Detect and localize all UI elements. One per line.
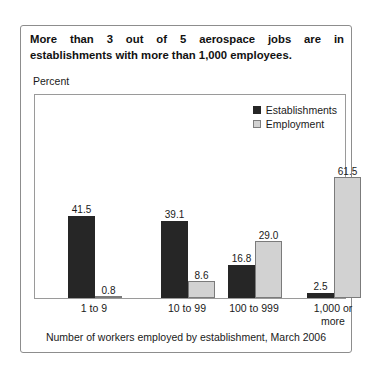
y-axis-caption: Percent [33, 75, 69, 87]
x-axis-label-line-2: more [321, 315, 345, 327]
bar-establishments: 16.8 [228, 265, 255, 298]
bar-group: 41.50.8 [68, 95, 122, 298]
legend-item-establishments: Establishments [253, 103, 337, 117]
x-axis-label: 1 to 9 [49, 302, 139, 315]
infographic-card: More than 3 out of 5 aerospace jobs are … [20, 25, 352, 353]
bar-employment: 0.8 [95, 296, 122, 298]
headline: More than 3 out of 5 aerospace jobs are … [30, 32, 344, 63]
bar-value-label: 29.0 [259, 230, 278, 241]
legend-swatch-employment-icon [253, 120, 261, 128]
footer-caption: Number of workers employed by establishm… [21, 331, 351, 343]
bar-value-label: 8.6 [195, 270, 209, 281]
bar-establishments: 41.5 [68, 216, 95, 298]
bar-employment: 29.0 [255, 241, 282, 298]
bar-value-label: 41.5 [72, 204, 91, 215]
bar-group: 39.18.6 [161, 95, 215, 298]
bar-value-label: 39.1 [165, 209, 184, 220]
x-axis-label: 1,000 ormore [288, 302, 378, 328]
x-axis-label: 100 to 999 [209, 302, 299, 315]
legend-item-employment: Employment [253, 117, 337, 131]
legend-swatch-establishments-icon [253, 106, 261, 114]
bar-establishments: 39.1 [161, 221, 188, 298]
headline-line-1: More than 3 out of 5 aerospace jobs are … [30, 32, 344, 48]
bar-value-label: 61.5 [338, 166, 357, 177]
legend-label-employment: Employment [266, 117, 324, 131]
bar-value-label: 2.5 [314, 281, 328, 292]
bar-employment: 8.6 [188, 281, 215, 298]
bar-establishments: 2.5 [307, 293, 334, 298]
chart-plot-area: 41.50.839.18.616.829.02.561.5 Establishm… [34, 94, 346, 299]
chart-legend: Establishments Employment [253, 103, 337, 131]
headline-line-2: establishments with more than 1,000 empl… [30, 48, 344, 64]
bar-employment: 61.5 [334, 177, 361, 298]
legend-label-establishments: Establishments [266, 103, 337, 117]
bar-value-label: 0.8 [102, 285, 116, 296]
bar-value-label: 16.8 [232, 253, 251, 264]
